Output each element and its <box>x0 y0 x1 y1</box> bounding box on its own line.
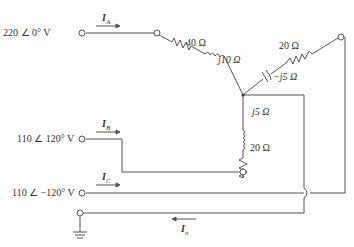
terminal-c <box>79 190 85 196</box>
terminal-a <box>79 30 85 36</box>
r-a-label: 40 Ω <box>186 38 206 48</box>
source-c-label: 110 ∠ −120° V <box>12 188 75 198</box>
r-c-label: 20 Ω <box>279 41 299 51</box>
l-b-label: j5 Ω <box>252 107 270 117</box>
circuit-diagram <box>0 0 354 247</box>
terminal-n <box>77 210 83 216</box>
crossover-bump <box>304 188 307 198</box>
current-c-label: IC <box>102 172 111 185</box>
current-n-label: In <box>181 224 188 237</box>
terminal-b <box>79 136 85 142</box>
l-a-label: j10 Ω <box>218 55 241 65</box>
source-b-label: 110 ∠ 120° V <box>17 134 74 144</box>
r-b-label: 20 Ω <box>250 143 270 153</box>
cap-plate-1 <box>262 72 268 82</box>
inductor-j5 <box>243 130 245 150</box>
c-c-label: −j5 Ω <box>273 72 297 82</box>
cap-plate-2 <box>266 70 271 80</box>
source-a-label: 220 ∠ 0° V <box>3 28 51 38</box>
current-a-label: IA <box>102 13 110 26</box>
resistor-20-c <box>286 51 312 64</box>
current-b-label: IB <box>102 119 110 132</box>
